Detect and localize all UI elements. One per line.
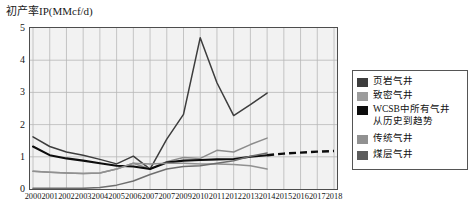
legend-swatch-icon [357,92,368,101]
x-axis-tick: 2001 [41,192,58,201]
legend-item[interactable]: WCSB中所有气井 从历史到趋势 [357,104,450,127]
y-axis-tick: 3 [20,86,25,97]
legend-item-label: 煤层气井 [373,149,413,161]
x-axis-labels: 2000200120022003200420052006200720072009… [0,192,471,212]
x-axis-tick: 2006 [125,192,142,201]
x-axis-tick: 2013 [242,192,259,201]
y-axis-tick: 4 [20,54,25,65]
legend-swatch-icon [357,135,368,144]
legend-item[interactable]: 传统气井 [357,133,413,145]
y-axis-tick: 2 [20,118,25,129]
y-axis-labels: 012345 [0,0,29,190]
x-axis-tick: 2009 [175,192,192,201]
legend-swatch-icon [357,78,368,87]
x-axis-tick: 2005 [108,192,125,201]
legend-item-label: WCSB中所有气井 从历史到趋势 [373,104,450,127]
legend-item-label: 传统气井 [373,133,413,145]
x-axis-tick: 2004 [92,192,109,201]
x-axis-tick: 2011 [209,192,225,201]
legend-item[interactable]: 煤层气井 [357,149,413,161]
x-axis-tick: 2007 [158,192,175,201]
x-axis-tick: 2003 [75,192,92,201]
x-axis-tick: 2015 [276,192,293,201]
x-axis-tick: 2016 [292,192,309,201]
x-axis-tick: 2012 [225,192,242,201]
x-axis-tick: 2000 [25,192,42,201]
x-axis-tick: 2010 [192,192,209,201]
legend-item-label: 致密气井 [373,90,413,102]
x-axis-tick: 2017 [309,192,326,201]
x-axis-tick: 2007 [142,192,159,201]
legend-item[interactable]: 致密气井 [357,90,413,102]
plot-area [29,27,338,190]
plot-svg [30,28,337,189]
legend-swatch-icon [357,151,368,160]
legend-swatch-icon [357,106,368,115]
legend-item-label: 页岩气井 [373,76,413,88]
chart-legend: 页岩气井致密气井WCSB中所有气井 从历史到趋势传统气井煤层气井 [352,70,468,170]
x-axis-tick: 2018 [326,192,343,201]
chart-root: 初产率IP(MMcf/d) 012345 2000200120022003200… [0,0,471,214]
x-axis-tick: 2002 [58,192,75,201]
y-axis-tick: 5 [20,22,25,33]
y-axis-tick: 1 [20,150,25,161]
legend-item[interactable]: 页岩气井 [357,76,413,88]
x-axis-tick: 2014 [259,192,276,201]
